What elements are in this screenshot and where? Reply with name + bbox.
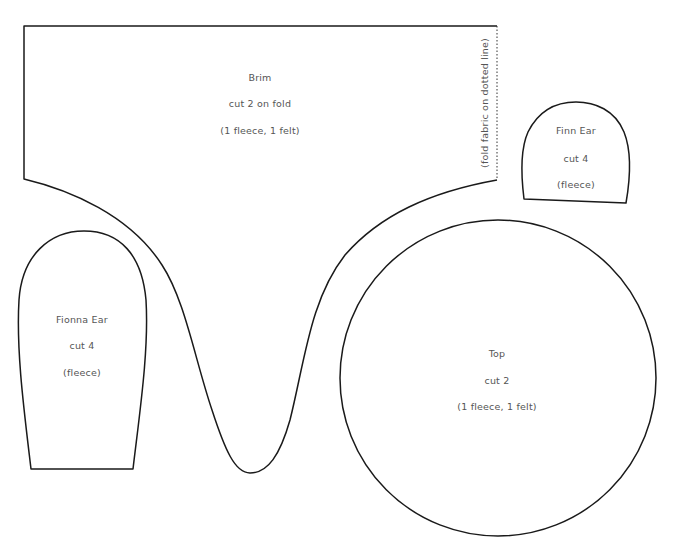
top-material: (1 fleece, 1 felt): [457, 401, 536, 412]
sewing-pattern-canvas: [0, 0, 681, 559]
top-title: Top: [489, 348, 506, 359]
finn-ear-title: Finn Ear: [556, 125, 596, 136]
brim-outline: [24, 26, 497, 473]
finn-ear-material: (fleece): [557, 179, 595, 190]
brim-title: Brim: [248, 72, 271, 83]
brim-material: (1 fleece, 1 felt): [220, 125, 299, 136]
fionna-ear-material: (fleece): [63, 367, 101, 378]
fionna-ear-title: Fionna Ear: [56, 314, 108, 325]
fionna-ear-cut-instruction: cut 4: [69, 340, 94, 351]
brim-fold-note: (fold fabric on dotted line): [479, 38, 490, 168]
top-cut-instruction: cut 2: [484, 375, 509, 386]
finn-ear-cut-instruction: cut 4: [563, 153, 588, 164]
brim-cut-instruction: cut 2 on fold: [229, 98, 291, 109]
